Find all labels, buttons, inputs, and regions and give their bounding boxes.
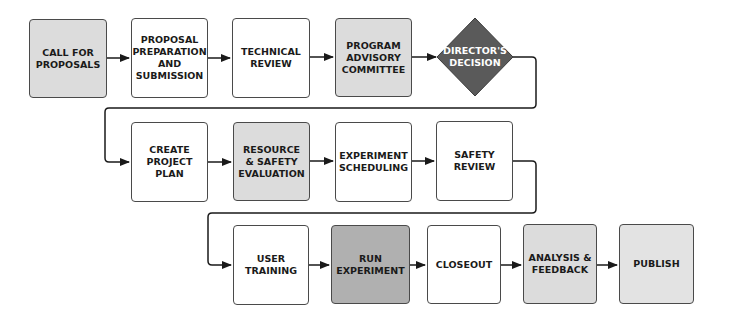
step-directors-decision: DIRECTOR'S DECISION xyxy=(437,45,513,69)
step-call-for-proposals: CALL FOR PROPOSALS xyxy=(29,19,107,98)
step-experiment-scheduling: EXPERIMENT SCHEDULING xyxy=(335,122,412,202)
step-safety-review: SAFETY REVIEW xyxy=(436,121,513,201)
step-publish: PUBLISH xyxy=(619,224,694,304)
step-label: USER TRAINING xyxy=(245,253,297,277)
step-user-training: USER TRAINING xyxy=(233,225,309,305)
step-proposal-preparation: PROPOSAL PREPARATION AND SUBMISSION xyxy=(131,18,208,98)
step-label: PROPOSAL PREPARATION AND SUBMISSION xyxy=(132,34,206,82)
step-label: PROGRAM ADVISORY COMMITTEE xyxy=(342,40,406,76)
step-label: PUBLISH xyxy=(633,258,679,270)
step-create-project-plan: CREATE PROJECT PLAN xyxy=(131,122,208,202)
step-label: TECHNICAL REVIEW xyxy=(241,46,301,70)
step-program-advisory-committee: PROGRAM ADVISORY COMMITTEE xyxy=(335,18,412,97)
step-label: CALL FOR PROPOSALS xyxy=(36,47,100,71)
step-technical-review: TECHNICAL REVIEW xyxy=(232,18,310,98)
step-closeout: CLOSEOUT xyxy=(427,225,501,304)
step-label: RUN EXPERIMENT xyxy=(336,253,405,277)
step-label: RESOURCE & SAFETY EVALUATION xyxy=(238,144,304,180)
step-label: CLOSEOUT xyxy=(436,259,492,271)
step-resource-safety-evaluation: RESOURCE & SAFETY EVALUATION xyxy=(233,122,310,201)
step-label: EXPERIMENT SCHEDULING xyxy=(339,150,408,174)
step-label: ANALYSIS & FEEDBACK xyxy=(529,252,592,276)
step-run-experiment: RUN EXPERIMENT xyxy=(331,225,410,304)
step-analysis-feedback: ANALYSIS & FEEDBACK xyxy=(523,224,597,304)
step-label: SAFETY REVIEW xyxy=(454,149,496,173)
step-label: CREATE PROJECT PLAN xyxy=(147,144,193,180)
